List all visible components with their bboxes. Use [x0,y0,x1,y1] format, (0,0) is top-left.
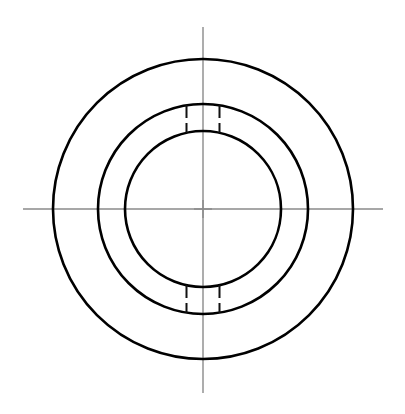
drawing-svg [0,0,405,414]
technical-drawing-canvas [0,0,405,414]
